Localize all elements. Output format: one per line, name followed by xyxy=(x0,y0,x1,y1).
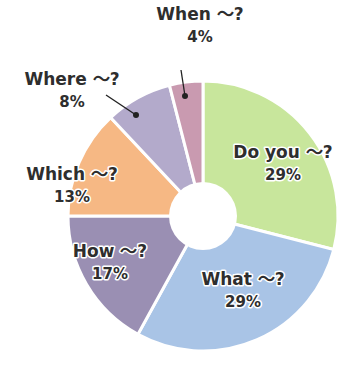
slice-label: Do you ～? xyxy=(233,142,332,162)
leader-dot xyxy=(182,93,188,99)
slice-label: Where ～? xyxy=(24,69,119,89)
donut-hole xyxy=(169,182,237,250)
slice-label: When ～? xyxy=(156,4,243,24)
slice-percent: 29% xyxy=(265,166,301,184)
slice-label: What ～? xyxy=(201,269,284,289)
slice-percent: 13% xyxy=(54,188,90,206)
slice-percent: 4% xyxy=(187,28,212,46)
slice-label: How ～? xyxy=(73,241,147,261)
slice-label: Which ～? xyxy=(26,164,118,184)
donut-chart: Do you ～?29%What ～?29%How ～?17%Which ～?1… xyxy=(0,0,358,366)
slice-percent: 8% xyxy=(59,93,84,111)
leader-dot xyxy=(133,112,139,118)
slice-percent: 29% xyxy=(225,293,261,311)
slice-percent: 17% xyxy=(92,265,128,283)
